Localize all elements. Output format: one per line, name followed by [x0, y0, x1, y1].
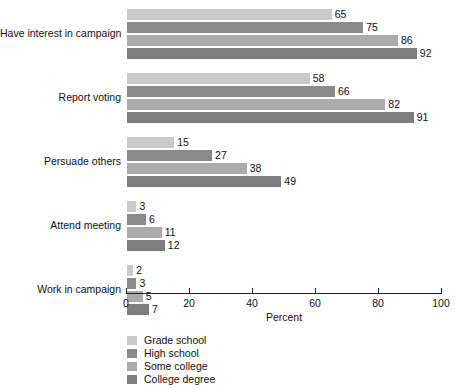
bar-value-label: 5 — [146, 290, 152, 302]
category-label: Have interest in campaign — [0, 28, 121, 39]
bar-value-label: 91 — [417, 111, 429, 123]
bar — [127, 176, 281, 187]
bar-value-label: 82 — [388, 98, 400, 110]
bar-row: 65 — [127, 9, 442, 20]
bar-row: 6 — [127, 214, 442, 225]
x-axis-tick — [315, 288, 316, 294]
bar — [127, 201, 136, 212]
legend-swatch-icon — [127, 362, 137, 371]
bar-row: 11 — [127, 227, 442, 238]
legend-item: High school — [127, 347, 327, 360]
bar-row: 49 — [127, 176, 442, 187]
x-axis-tick-label: 80 — [358, 297, 398, 309]
x-axis-tick — [441, 288, 442, 294]
legend-item: Some college — [127, 360, 327, 373]
bar-row: 12 — [127, 240, 442, 251]
legend-swatch-icon — [127, 375, 137, 384]
bar — [127, 163, 247, 174]
bar-value-label: 6 — [149, 213, 155, 225]
x-axis-tick-label: 100 — [421, 297, 455, 309]
bar-row: 75 — [127, 22, 442, 33]
bar — [127, 265, 133, 276]
legend-label: High school — [144, 347, 199, 360]
x-axis-tick-label: 0 — [106, 297, 146, 309]
x-axis-tick — [189, 288, 190, 294]
bar-group: Have interest in campaign65758692 — [0, 9, 450, 59]
legend-label: Grade school — [144, 334, 206, 347]
bar-value-label: 15 — [177, 136, 189, 148]
x-axis-tick-label: 40 — [232, 297, 272, 309]
bar — [127, 73, 310, 84]
bar — [127, 150, 212, 161]
bar-row: 3 — [127, 201, 442, 212]
bar-value-label: 27 — [215, 149, 227, 161]
category-label: Persuade others — [0, 156, 121, 167]
legend-item: Grade school — [127, 334, 327, 347]
bar-row: 58 — [127, 73, 442, 84]
x-axis-tick-label: 60 — [295, 297, 335, 309]
bar — [127, 86, 335, 97]
bar — [127, 99, 385, 110]
x-axis-tick-label: 20 — [169, 297, 209, 309]
bar — [127, 112, 414, 123]
bar-value-label: 3 — [139, 277, 145, 289]
plot-area: Have interest in campaign65758692Report … — [0, 0, 450, 300]
bar-row: 82 — [127, 99, 442, 110]
bar — [127, 9, 332, 20]
legend-swatch-icon — [127, 336, 137, 345]
legend-item: College degree — [127, 373, 327, 386]
bar-group: Report voting58668291 — [0, 73, 450, 123]
bar-value-label: 92 — [420, 47, 432, 59]
bar-group: Attend meeting361112 — [0, 201, 450, 251]
legend-label: Some college — [144, 360, 208, 373]
bar-value-label: 2 — [136, 264, 142, 276]
bar — [127, 214, 146, 225]
bar-value-label: 86 — [401, 34, 413, 46]
legend-label: College degree — [144, 373, 215, 386]
bar-value-label: 75 — [366, 21, 378, 33]
bar — [127, 227, 162, 238]
x-axis-tick — [252, 288, 253, 294]
x-axis-tick — [126, 288, 127, 294]
bar-row: 86 — [127, 35, 442, 46]
bar-row: 15 — [127, 137, 442, 148]
category-label: Work in campaign — [0, 284, 121, 295]
chart-legend: Grade schoolHigh schoolSome collegeColle… — [127, 334, 327, 386]
bar-row: 92 — [127, 48, 442, 59]
bar-group: Persuade others15273849 — [0, 137, 450, 187]
bar-row: 27 — [127, 150, 442, 161]
bar-value-label: 38 — [250, 162, 262, 174]
x-axis-title-label: Percent — [266, 311, 302, 323]
bar — [127, 22, 363, 33]
bar-value-label: 66 — [338, 85, 350, 97]
bar — [127, 48, 417, 59]
bar — [127, 278, 136, 289]
category-label: Attend meeting — [0, 220, 121, 231]
bar-value-label: 65 — [335, 8, 347, 20]
bar-value-label: 3 — [139, 200, 145, 212]
bar-row: 3 — [127, 278, 442, 289]
bar-row: 91 — [127, 112, 442, 123]
bar-row: 38 — [127, 163, 442, 174]
x-axis-line — [126, 293, 442, 294]
legend-swatch-icon — [127, 349, 137, 358]
bar — [127, 137, 174, 148]
bar — [127, 240, 165, 251]
bar — [127, 35, 398, 46]
bar-row: 66 — [127, 86, 442, 97]
category-label: Report voting — [0, 92, 121, 103]
x-axis-tick — [378, 288, 379, 294]
bar-value-label: 11 — [165, 226, 176, 238]
bar-value-label: 12 — [168, 239, 180, 251]
x-axis-title: Percent — [0, 311, 450, 323]
bar-value-label: 49 — [284, 175, 296, 187]
bar-row: 2 — [127, 265, 442, 276]
bar-value-label: 58 — [313, 72, 325, 84]
